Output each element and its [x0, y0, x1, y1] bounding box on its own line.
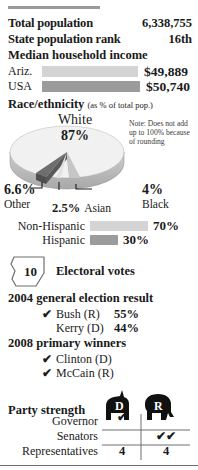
total-population-label: Total population — [8, 16, 93, 31]
race-title-text: Race/ethnicity — [8, 97, 84, 111]
hispanic-row-hispanic: Hispanic 30% — [4, 233, 194, 247]
candidate-name-kerry: Kerry (D) — [56, 321, 114, 336]
pie-label-asian-pct: 2.5% — [52, 201, 80, 215]
party-row-label-representatives: Representatives — [22, 444, 98, 459]
state-profile-infographic: Total population 6,338,755 State populat… — [0, 0, 198, 470]
pie-label-white: White 87% — [40, 112, 110, 144]
pie-label-black-pct: 4% — [142, 182, 169, 198]
race-subtitle: (as % of total pop.) — [88, 100, 153, 110]
checkmark-icon-clinton: ✔ — [42, 352, 56, 367]
checkmark-icon-bush: ✔ — [42, 307, 56, 322]
party-row-label-senators: Senators — [57, 429, 98, 444]
checkmark-icon-mccain: ✔ — [42, 366, 56, 381]
hispanic-bar-non-hispanic — [90, 221, 148, 231]
income-bar-usa — [42, 81, 140, 92]
top-divider — [8, 6, 100, 9]
candidate-name-bush: Bush (R) — [56, 307, 114, 322]
party-cell-senators-r: ✔✔ — [146, 429, 186, 444]
party-strength-table: D R ✔ ✔✔ 4 4 — [100, 384, 192, 460]
hispanic-label-non-hispanic: Non-Hispanic — [4, 219, 90, 234]
population-rank-label: State population rank — [8, 32, 121, 47]
income-row-arizona: Ariz. $49,889 — [8, 64, 192, 79]
hispanic-label-hispanic: Hispanic — [4, 233, 90, 248]
electoral-votes-section: 10 Electoral votes — [6, 255, 196, 289]
hispanic-pct-non-hispanic: 70% — [153, 218, 179, 234]
electoral-votes-label: Electoral votes — [56, 264, 135, 279]
candidate-row-kerry: Kerry (D) 44% — [42, 321, 139, 336]
svg-text:R: R — [154, 399, 163, 413]
pie-label-black-name: Black — [142, 198, 169, 210]
primary-2008-title: 2008 primary winners — [8, 336, 126, 351]
party-cell-governor-d: ✔ — [106, 410, 138, 425]
income-label-usa: USA — [8, 79, 42, 94]
primary-row-clinton: ✔ Clinton (D) — [42, 352, 114, 367]
income-value-usa: $50,740 — [146, 79, 190, 95]
population-rank-value: 16th — [168, 32, 192, 47]
income-bar-arizona — [42, 66, 138, 77]
primary-name-mccain: McCain (R) — [56, 366, 114, 381]
pie-label-asian: 2.5% Asian — [52, 198, 111, 216]
primary-name-clinton: Clinton (D) — [56, 352, 114, 367]
electoral-votes-count: 10 — [24, 264, 37, 280]
income-label-arizona: Ariz. — [8, 64, 42, 79]
candidate-row-bush: ✔ Bush (R) 55% — [42, 307, 139, 322]
pie-label-other-name: Other — [4, 198, 36, 210]
pie-label-white-pct: 87% — [40, 128, 110, 144]
pie-label-other: 6.6% Other — [4, 182, 36, 210]
hispanic-bar-hispanic — [90, 235, 118, 245]
election-2004-title: 2004 general election result — [8, 291, 153, 306]
income-value-arizona: $49,889 — [144, 64, 188, 80]
pie-label-black: 4% Black — [142, 182, 169, 210]
party-cell-representatives-d: 4 — [106, 444, 138, 459]
population-rank-row: State population rank 16th — [8, 32, 192, 47]
hispanic-pct-hispanic: 30% — [123, 232, 149, 248]
pie-label-white-name: White — [40, 112, 110, 128]
candidate-pct-bush: 55% — [114, 307, 139, 322]
primary-row-mccain: ✔ McCain (R) — [42, 366, 114, 381]
total-population-value: 6,338,755 — [142, 16, 192, 31]
party-cell-representatives-r: 4 — [146, 444, 186, 459]
median-income-title: Median household income — [8, 48, 148, 63]
pie-label-asian-name: Asian — [84, 202, 111, 214]
total-population-row: Total population 6,338,755 — [8, 16, 192, 31]
income-row-usa: USA $50,740 — [8, 79, 192, 94]
bottom-divider — [0, 465, 198, 467]
pie-label-other-pct: 6.6% — [4, 182, 36, 198]
candidate-pct-kerry: 44% — [114, 321, 139, 336]
party-row-label-governor: Governor — [52, 414, 98, 429]
pie-rounding-note: Note: Does not add up to 100% because of… — [129, 120, 195, 146]
hispanic-row-non-hispanic: Non-Hispanic 70% — [4, 219, 194, 233]
